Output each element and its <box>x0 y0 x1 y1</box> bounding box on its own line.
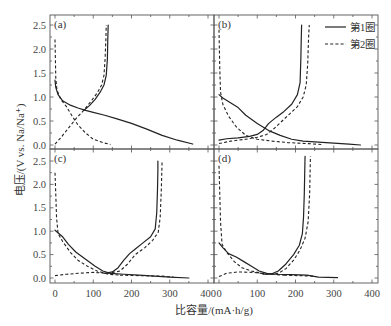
series-line <box>55 230 189 278</box>
panel-d: 0100200300400(d) <box>214 149 380 299</box>
x-tick-label: 100 <box>249 288 265 299</box>
series-line <box>55 39 110 144</box>
x-axis-title: 比容量/(mA·h/g) <box>175 303 253 317</box>
x-tick-label: 200 <box>288 288 304 299</box>
panel-label: (b) <box>218 18 231 31</box>
series-line <box>219 166 284 276</box>
y-tick-label: 0.0 <box>33 273 46 284</box>
charge-discharge-figure: 0.00.51.01.52.02.5(a)(b)0.00.51.01.52.02… <box>0 0 391 326</box>
y-tick-label: 0.0 <box>33 140 46 151</box>
y-tick-label: 0.5 <box>33 116 46 127</box>
series-line <box>219 25 302 140</box>
series-line <box>219 156 310 276</box>
series-line <box>55 25 106 144</box>
series-line <box>105 161 158 273</box>
series-line <box>219 25 309 144</box>
y-tick-label: 2.0 <box>33 44 46 55</box>
panel-frame <box>50 15 214 149</box>
y-tick-label: 2.5 <box>33 156 46 167</box>
x-tick-label: 400 <box>364 288 380 299</box>
panel-frame <box>50 149 214 283</box>
panel-a: 0.00.51.01.52.02.5(a) <box>33 15 214 151</box>
y-tick-label: 1.5 <box>33 68 46 79</box>
legend: 第1圈第2圈 <box>325 21 375 50</box>
y-tick-label: 1.5 <box>33 202 46 213</box>
panel-label: (a) <box>54 18 67 31</box>
x-tick-label: 200 <box>124 288 140 299</box>
y-tick-label: 2.5 <box>33 20 46 31</box>
series-line <box>263 156 305 274</box>
y-tick-label: 2.0 <box>33 179 46 190</box>
y-tick-label: 0.5 <box>33 249 46 260</box>
y-axis-title: 电压/(V vs. Na/Na⁺) <box>14 103 27 196</box>
series-line <box>84 25 108 110</box>
x-tick-label: 300 <box>162 288 178 299</box>
x-tick-label: 300 <box>326 288 342 299</box>
x-tick-label: 100 <box>85 288 101 299</box>
series-line <box>55 80 193 144</box>
panels-group: 0.00.51.01.52.02.5(a)(b)0.00.51.01.52.02… <box>33 15 380 299</box>
legend-label: 第2圈 <box>350 38 375 50</box>
panel-frame <box>214 149 378 283</box>
panel-c: 0.00.51.01.52.02.50100200300400(c) <box>33 149 216 299</box>
x-tick-label: 0 <box>52 288 57 299</box>
legend-label: 第1圈 <box>350 21 375 33</box>
series-line <box>55 173 120 275</box>
x-tick-label: 400 <box>200 288 216 299</box>
panel-b: (b) <box>214 15 378 149</box>
y-tick-label: 1.0 <box>33 226 46 237</box>
x-tick-label: 0 <box>216 288 221 299</box>
y-tick-label: 1.0 <box>33 92 46 103</box>
panel-label: (c) <box>54 152 67 165</box>
panel-label: (d) <box>218 152 231 165</box>
series-line <box>55 161 162 276</box>
series-line <box>219 30 322 145</box>
